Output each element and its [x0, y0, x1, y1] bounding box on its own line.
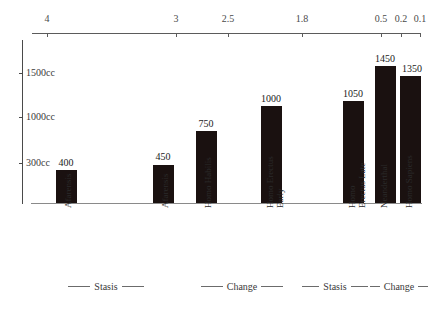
top-axis-tick-label: 0.5: [375, 14, 388, 24]
bar-value-label: 1000: [261, 94, 281, 104]
category-label-line: Neanderthal: [379, 164, 389, 208]
top-axis-tick: [176, 33, 177, 37]
phase-rule-right: [418, 286, 428, 287]
category-label: Homo Habilis: [204, 157, 214, 208]
top-axis-tick: [47, 33, 48, 37]
top-axis-tick: [228, 33, 229, 37]
bar-value-label: 1050: [343, 89, 363, 99]
bar-value-label: 1350: [402, 64, 422, 74]
category-label-line: Homo Erectus: [265, 156, 275, 208]
top-axis-tick-label: 1.8: [296, 14, 309, 24]
phase-label: Change: [384, 281, 415, 292]
top-axis-tick: [420, 33, 421, 37]
top-axis-tick-label: 4: [45, 14, 50, 24]
y-axis-tick-label: 300cc: [26, 158, 50, 168]
bar-value-label: 450: [156, 152, 171, 162]
phase-rule-left: [68, 286, 90, 287]
top-axis-tick-label: 0.1: [414, 14, 427, 24]
top-age-axis-line: [32, 33, 420, 34]
phase-annotation: Change: [184, 281, 300, 292]
phase-rule-left: [370, 286, 380, 287]
bar-value-label: 750: [199, 119, 214, 129]
category-label: HomoErectus Late: [348, 148, 367, 208]
bar-value-label: 400: [59, 158, 74, 168]
y-axis-tick-label: 1000cc: [26, 112, 55, 122]
phase-rule-right: [261, 286, 283, 287]
top-axis-tick-label: 3: [174, 14, 179, 24]
phase-rule-right: [351, 286, 368, 287]
phase-annotation: Stasis: [36, 281, 176, 292]
phase-annotation: Change: [370, 281, 428, 292]
top-axis-tick-label: 0.2: [395, 14, 408, 24]
phase-label: Stasis: [323, 281, 346, 292]
category-label: Afarensis: [64, 174, 74, 209]
y-axis-tick: [19, 163, 23, 164]
phase-rule-left: [302, 286, 319, 287]
category-label-line: Homo Sapiens: [404, 155, 414, 208]
category-label-line: Erectus Late: [358, 148, 368, 208]
y-axis-line: [22, 40, 23, 204]
y-axis-tick-label: 1500cc: [26, 68, 55, 78]
category-label-line: Afarensis: [160, 174, 170, 209]
y-axis-tick: [19, 117, 23, 118]
category-label-line: Afarensis: [63, 174, 73, 209]
category-label-line: Homo: [347, 186, 357, 209]
category-label-line: Early: [276, 148, 286, 208]
category-label: Homo ErectusEarly: [266, 148, 285, 208]
phase-annotation: Stasis: [302, 281, 368, 292]
y-axis-tick: [19, 73, 23, 74]
category-label: Neanderthal: [380, 164, 390, 208]
top-axis-tick: [302, 33, 303, 37]
bar-value-label: 1450: [375, 54, 395, 64]
category-label: Afarensis: [161, 174, 171, 209]
phase-label: Stasis: [94, 281, 117, 292]
top-axis-tick-label: 2.5: [222, 14, 235, 24]
category-label-line: Homo Habilis: [203, 157, 213, 208]
top-axis-tick: [381, 33, 382, 37]
phase-rule-right: [122, 286, 144, 287]
phase-rule-left: [201, 286, 223, 287]
top-axis-tick: [401, 33, 402, 37]
phase-label: Change: [227, 281, 258, 292]
category-label: Homo Sapiens: [405, 155, 415, 208]
brain-size-evolution-chart: 432.51.80.50.20.1 300cc1000cc1500cc 4004…: [0, 0, 434, 309]
